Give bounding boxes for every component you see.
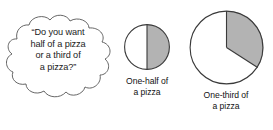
figure-third-caption-line-1: One-third of (182, 90, 270, 101)
speech-line-3: or a third of (17, 50, 99, 62)
figure-half-caption-line-2: a pizza (111, 87, 183, 98)
speech-line-4: a pizza?” (17, 62, 99, 74)
speech-line-1: “Do you want (17, 27, 99, 39)
figure-third-caption-line-2: a pizza (182, 101, 270, 112)
figure-one-third: One-third of a pizza (182, 10, 270, 111)
figure-one-half: One-half of a pizza (111, 23, 183, 97)
half-shaded-sector (147, 25, 169, 70)
figure-half-caption: One-half of a pizza (111, 76, 183, 97)
pie-diagram-half-icon (123, 23, 171, 71)
speech-bubble: “Do you want half of a pizza or a third … (3, 11, 113, 100)
figure-third-caption: One-third of a pizza (182, 90, 270, 111)
speech-bubble-text: “Do you want half of a pizza or a third … (17, 27, 99, 73)
speech-line-2: half of a pizza (17, 39, 99, 51)
illustration-canvas: “Do you want half of a pizza or a third … (0, 0, 273, 130)
pie-diagram-third-icon (189, 10, 264, 85)
half-unshaded-sector (125, 25, 147, 70)
figure-half-caption-line-1: One-half of (111, 76, 183, 87)
